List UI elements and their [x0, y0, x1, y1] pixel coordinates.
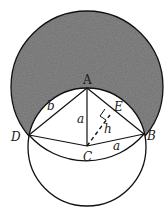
label-a-vertical: a: [77, 112, 84, 126]
label-D: D: [10, 130, 21, 144]
geometry-diagram: A B C D E b a a h: [0, 0, 168, 215]
label-B: B: [146, 129, 156, 143]
label-E: E: [113, 100, 123, 114]
label-A: A: [82, 73, 92, 87]
label-b: b: [47, 99, 55, 113]
label-a-lower: a: [113, 139, 120, 153]
label-h: h: [104, 122, 112, 136]
label-C: C: [83, 150, 92, 164]
